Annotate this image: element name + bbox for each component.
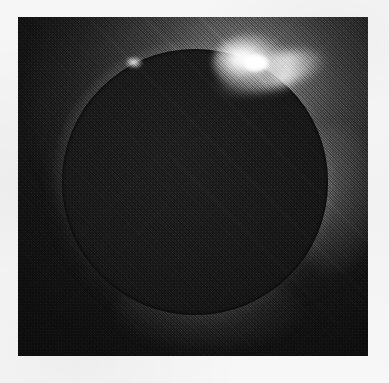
lunar-disk — [62, 49, 328, 315]
limb-bead-icon — [126, 57, 142, 68]
diamond-ring-core — [243, 54, 269, 72]
page-canvas: Black and white photograph of a total so… — [0, 0, 389, 383]
eclipse-photograph: Black and white photograph of a total so… — [18, 17, 368, 356]
